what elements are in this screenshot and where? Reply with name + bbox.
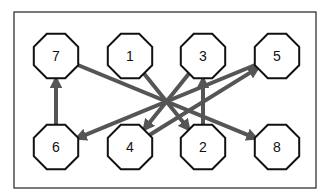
node-3: 3	[181, 34, 225, 78]
node-7: 7	[34, 34, 78, 78]
node-label: 7	[52, 48, 60, 64]
node-8: 8	[255, 125, 299, 169]
node-label: 4	[126, 139, 134, 155]
node-label: 8	[273, 139, 281, 155]
node-label: 3	[199, 48, 207, 64]
node-label: 6	[52, 139, 60, 155]
node-label: 1	[126, 48, 134, 64]
node-6: 6	[34, 125, 78, 169]
node-1: 1	[108, 34, 152, 78]
node-5: 5	[255, 34, 299, 78]
node-2: 2	[181, 125, 225, 169]
node-label: 5	[273, 48, 281, 64]
node-label: 2	[199, 139, 207, 155]
graph-diagram: 71356428	[0, 0, 327, 194]
node-4: 4	[108, 125, 152, 169]
